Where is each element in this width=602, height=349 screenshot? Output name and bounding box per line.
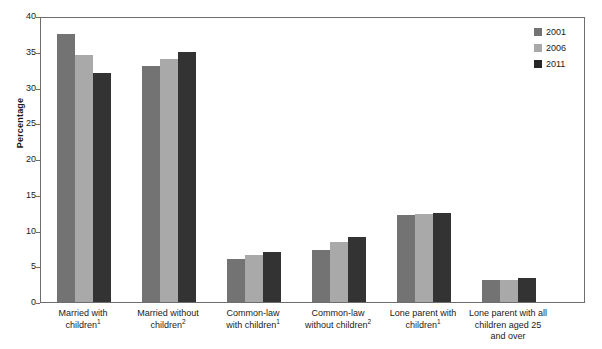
y-axis-tick-label: 40 xyxy=(0,12,36,21)
legend-label: 2006 xyxy=(546,44,566,53)
bar xyxy=(518,278,536,302)
footnote-marker: 2 xyxy=(182,318,186,325)
legend: 200120062011 xyxy=(534,24,586,72)
label-line: Lone parent with all xyxy=(458,308,558,320)
bar xyxy=(482,280,500,302)
y-axis-tick-label: 30 xyxy=(0,84,36,93)
y-axis-tick-label: 35 xyxy=(0,48,36,57)
bar xyxy=(142,66,160,302)
legend-swatch-icon xyxy=(534,60,542,68)
bar xyxy=(227,259,245,302)
footnote-marker: 1 xyxy=(437,318,441,325)
y-axis-tick-label: 10 xyxy=(0,227,36,236)
y-axis-tick-label: 20 xyxy=(0,155,36,164)
label-line: and over xyxy=(458,331,558,343)
bar-chart: Percentage 0510152025303540 Married with… xyxy=(0,0,602,349)
bar xyxy=(263,252,281,302)
bar xyxy=(160,59,178,302)
legend-item: 2006 xyxy=(534,40,586,56)
legend-item: 2001 xyxy=(534,24,586,40)
bar xyxy=(245,255,263,302)
footnote-marker: 1 xyxy=(276,318,280,325)
y-axis-tick-label: 25 xyxy=(0,119,36,128)
footnote-marker: 1 xyxy=(97,318,101,325)
bar xyxy=(397,215,415,302)
bars-layer xyxy=(41,18,584,302)
bar xyxy=(415,214,433,302)
bar xyxy=(178,52,196,302)
legend-swatch-icon xyxy=(534,28,542,36)
bar xyxy=(93,73,111,302)
bar xyxy=(348,237,366,302)
bar xyxy=(75,55,93,302)
legend-label: 2011 xyxy=(546,60,565,69)
footnote-marker: 2 xyxy=(367,318,371,325)
bar xyxy=(330,242,348,302)
y-axis-tick-label: 5 xyxy=(0,262,36,271)
legend-label: 2001 xyxy=(546,28,566,37)
y-axis-tick-mark xyxy=(36,303,40,304)
legend-swatch-icon xyxy=(534,44,542,52)
legend-item: 2011 xyxy=(534,56,586,72)
bar xyxy=(500,280,518,302)
bar xyxy=(433,213,451,302)
y-axis-tick-label: 0 xyxy=(0,298,36,307)
bar xyxy=(312,250,330,302)
plot-area xyxy=(40,17,585,303)
bar xyxy=(57,34,75,302)
label-line: children aged 25 xyxy=(458,320,558,332)
y-axis-tick-label: 15 xyxy=(0,191,36,200)
x-axis-category-label: Lone parent with allchildren aged 25and … xyxy=(458,308,558,343)
